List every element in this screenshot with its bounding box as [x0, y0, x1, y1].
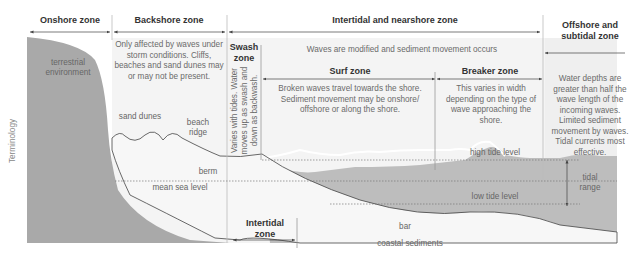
breaker-zone-title: Breaker zone — [440, 66, 540, 77]
nearshore-description: Waves are modified and sediment movement… — [262, 45, 542, 56]
surf-zone-title: Surf zone — [300, 66, 400, 77]
beach-ridge-label-2: ridge — [183, 128, 213, 138]
intertidal-nearshore-title: Intertidal and nearshore zone — [260, 15, 530, 26]
intertidal-zone-title-1: Intertidal — [235, 218, 295, 229]
berm-label: berm — [193, 167, 223, 177]
low-tide-level-label: low tide level — [460, 192, 530, 202]
offshore-title-2: subtidal zone — [545, 31, 635, 42]
backshore-zone-title: Backshore zone — [114, 15, 224, 26]
swash-description-2: moves up as swash and — [240, 63, 250, 158]
backshore-description: Only affected by waves under storm condi… — [113, 40, 225, 82]
sand-dunes-label: sand dunes — [115, 112, 165, 122]
swash-title-1: Swash — [228, 42, 260, 53]
surf-zone-description: Broken waves travel towards the shore. S… — [270, 84, 430, 116]
swash-description-3: down as backwash. — [250, 63, 260, 158]
terrestrial-label-1: terrestrial — [38, 58, 98, 68]
swash-description-1: Varies with tides. Water — [230, 63, 240, 158]
coastal-sediments-label: coastal sediments — [370, 239, 450, 249]
terminology-axis-label: Terminology — [8, 116, 18, 166]
breaker-zone-description: This varies in width depending on the ty… — [440, 84, 542, 126]
mean-sea-level-label: mean sea level — [145, 183, 215, 193]
beach-ridge-label-1: beach — [183, 118, 213, 128]
high-tide-level-label: high tide level — [460, 148, 530, 158]
intertidal-zone-title-2: zone — [235, 229, 295, 240]
coastal-profile-diagram — [0, 0, 637, 271]
tidal-range-label-1: tidal — [575, 173, 605, 183]
offshore-description: Water depths are greater than half the w… — [548, 74, 632, 158]
tidal-range-label-2: range — [575, 183, 605, 193]
bar-label: bar — [395, 222, 415, 232]
terrestrial-label-2: environment — [38, 68, 98, 78]
offshore-title-1: Offshore and — [545, 20, 635, 31]
onshore-zone-title: Onshore zone — [30, 15, 110, 26]
